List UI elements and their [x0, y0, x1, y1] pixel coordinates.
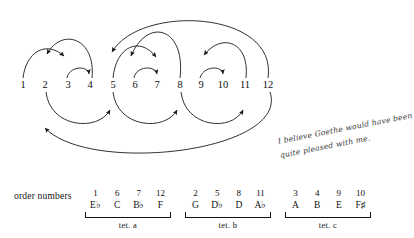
- tetrachord-a-order-numbers: 1 6 7 12: [85, 188, 171, 199]
- arc-6-to-7: [134, 68, 157, 78]
- pitch-name: A: [285, 200, 306, 212]
- row-number-3: 3: [61, 80, 75, 91]
- arc-12-to-5: [112, 21, 269, 78]
- pitch-name: F♯: [350, 200, 371, 212]
- pitch-name: A♭: [250, 200, 271, 212]
- order-number: 9: [328, 188, 349, 199]
- row-number-9: 9: [194, 80, 208, 91]
- row-number-4: 4: [83, 80, 97, 91]
- arc-8-to-11: [181, 92, 243, 124]
- tetrachord-b-order-numbers: 2 5 8 11: [185, 188, 271, 199]
- tetrachord-c-label: tet. c: [285, 220, 371, 230]
- arcs-below: [45, 92, 271, 153]
- tetrachord-a: 1 6 7 12 E♭ C B♭ F tet. a: [85, 188, 171, 230]
- tetrachord-b: 2 5 8 11 G D♭ D A♭ tet. b: [185, 188, 271, 230]
- order-number: 2: [185, 188, 206, 199]
- arc-3-to-4: [67, 68, 89, 78]
- order-number: 12: [150, 188, 171, 199]
- order-number: 4: [307, 188, 328, 199]
- tetrachord-a-bracket: [85, 212, 171, 218]
- row-number-11: 11: [238, 80, 252, 91]
- order-number: 7: [128, 188, 149, 199]
- row-number-1: 1: [16, 80, 30, 91]
- pitch-name: E: [328, 200, 349, 212]
- arcs-above: [23, 21, 269, 78]
- order-number: 1: [85, 188, 106, 199]
- pitch-name: E♭: [85, 200, 106, 212]
- row-number-10: 10: [216, 80, 230, 91]
- arc-5-to-8: [113, 92, 177, 124]
- arc-1-to-3: [23, 49, 64, 78]
- tetrachord-b-label: tet. b: [185, 220, 271, 230]
- order-number: 5: [207, 188, 228, 199]
- pitch-name: D♭: [207, 200, 228, 212]
- pitch-name: B♭: [128, 200, 149, 212]
- order-number: 10: [350, 188, 371, 199]
- pitch-name: D: [228, 200, 249, 212]
- arc-9-to-10: [200, 68, 223, 78]
- row-number-2: 2: [38, 80, 52, 91]
- row-number-12: 12: [261, 80, 275, 91]
- tetrachord-c-order-numbers: 3 4 9 10: [285, 188, 371, 199]
- tetrachord-b-bracket: [185, 212, 271, 218]
- order-number: 8: [228, 188, 249, 199]
- tetrachord-c-pitches: A B E F♯: [285, 200, 371, 212]
- pitch-name: G: [185, 200, 206, 212]
- order-numbers-label: order numbers: [14, 191, 72, 201]
- order-number: 3: [285, 188, 306, 199]
- pitch-name: B: [307, 200, 328, 212]
- row-number-7: 7: [150, 80, 164, 91]
- row-number-5: 5: [106, 80, 120, 91]
- tetrachord-c: 3 4 9 10 A B E F♯ tet. c: [285, 188, 371, 230]
- arc-5-to-7: [113, 46, 156, 78]
- order-number: 11: [250, 188, 271, 199]
- row-number-8: 8: [173, 80, 187, 91]
- row-number-6: 6: [128, 80, 142, 91]
- tetrachord-b-pitches: G D♭ D A♭: [185, 200, 271, 212]
- order-number: 6: [107, 188, 128, 199]
- tetrachord-a-label: tet. a: [85, 220, 171, 230]
- tetrachord-a-pitches: E♭ C B♭ F: [85, 200, 171, 212]
- arc-2-to-5: [46, 92, 110, 124]
- pitch-name: F: [150, 200, 171, 212]
- tetrachord-c-bracket: [285, 212, 371, 218]
- pitch-name: C: [107, 200, 128, 212]
- arc-11-to-9: [204, 43, 246, 78]
